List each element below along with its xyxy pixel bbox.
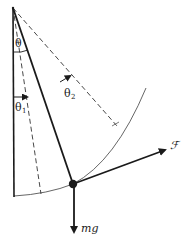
theta1-label: θ [15, 101, 22, 114]
applied-force-arrow [73, 150, 165, 184]
theta2-arrow [60, 76, 70, 82]
pivot-point [12, 7, 14, 9]
theta-angle-arc [14, 50, 28, 52]
pendulum-bob [69, 180, 77, 188]
force-label: ℱ [170, 139, 181, 152]
theta-label: θ [15, 37, 22, 50]
pendulum-diagram: θ θ 1 θ 2 ℱ mg [0, 0, 188, 245]
theta2-label: θ [64, 87, 71, 100]
dashed-line-theta2 [13, 8, 117, 126]
dashed-theta2-end-tick [112, 122, 119, 126]
weight-label: mg [81, 222, 98, 235]
theta2-subscript: 2 [71, 93, 75, 101]
vertical-reference-line [13, 8, 14, 197]
theta1-subscript: 1 [22, 107, 26, 115]
swing-arc [14, 88, 146, 196]
